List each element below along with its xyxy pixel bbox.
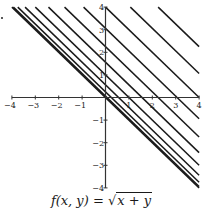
caption-prefix: f(x, y) = xyxy=(51,193,108,208)
level-curve xyxy=(48,7,199,152)
sqrt-sign: √ xyxy=(108,193,116,208)
x-tick-label: −3 xyxy=(27,101,39,110)
x-tick-label: −4 xyxy=(4,101,16,110)
level-curve xyxy=(25,7,199,175)
level-curve xyxy=(18,7,199,182)
y-tick-label: −1 xyxy=(92,116,104,125)
x-tick-label: 3 xyxy=(173,101,178,110)
level-curve xyxy=(35,7,199,165)
x-tick-label: −1 xyxy=(74,101,86,110)
function-caption: f(x, y) = √x + y xyxy=(0,193,203,208)
level-curve xyxy=(84,7,200,119)
contour-plot: −4−3−2−11234−4−3−2−11234 xyxy=(0,0,203,192)
stray-dot xyxy=(1,17,3,19)
y-tick-label: 3 xyxy=(99,26,104,35)
x-tick-label: −2 xyxy=(51,101,63,110)
y-tick-label: 1 xyxy=(99,71,104,80)
x-tick-label: 1 xyxy=(126,101,131,110)
y-tick-label: 4 xyxy=(99,3,104,12)
y-tick-label: −4 xyxy=(92,184,104,192)
level-curve xyxy=(13,7,199,186)
x-tick-label: 4 xyxy=(197,101,202,110)
level-curve xyxy=(106,7,200,97)
x-tick-label: 2 xyxy=(150,101,155,110)
caption-radicand: x + y xyxy=(116,192,152,208)
y-tick-label: −3 xyxy=(92,161,104,170)
y-tick-label: −2 xyxy=(92,139,104,148)
y-tick-label: 2 xyxy=(99,48,104,57)
axes: −4−3−2−11234−4−3−2−11234 xyxy=(4,3,202,192)
